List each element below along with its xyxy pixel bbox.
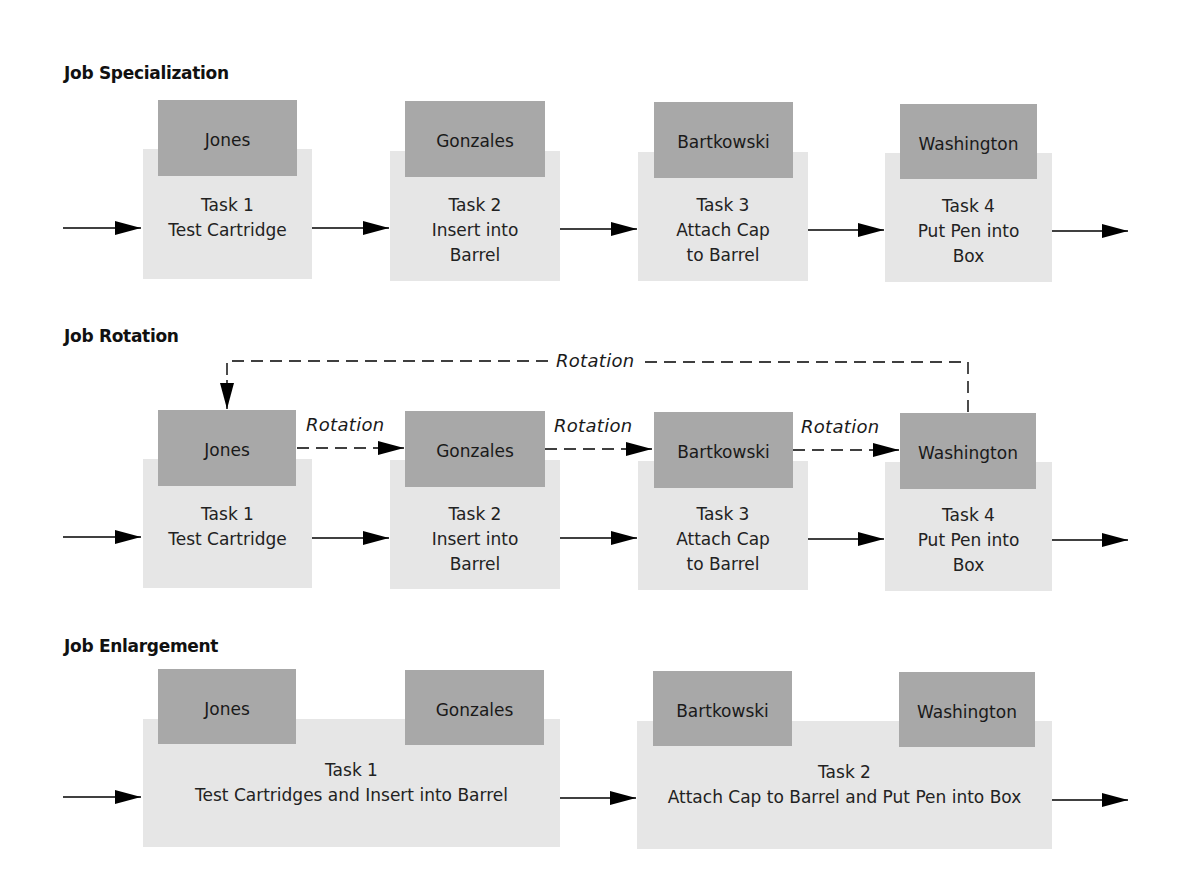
worker-box-bartkowski: Bartkowski	[654, 102, 793, 178]
task-label: Task 1 Test Cartridge	[143, 502, 312, 552]
task-description: Put Pen into	[885, 528, 1052, 553]
worker-box-washington: Washington	[900, 413, 1036, 489]
worker-box-jones: Jones	[158, 100, 297, 176]
task-number: Task 2	[390, 193, 560, 218]
task-description: Barrel	[390, 552, 560, 577]
task-label: Task 4 Put Pen into Box	[885, 194, 1052, 269]
worker-name: Jones	[205, 130, 251, 150]
worker-box-gonzales: Gonzales	[405, 670, 544, 745]
task-number: Task 3	[638, 502, 808, 527]
task-label: Task 2 Attach Cap to Barrel and Put Pen …	[637, 760, 1052, 810]
task-number: Task 4	[885, 503, 1052, 528]
task-description: to Barrel	[638, 552, 808, 577]
worker-name: Jones	[204, 440, 250, 460]
task-label: Task 1 Test Cartridges and Insert into B…	[143, 758, 560, 808]
task-number: Task 4	[885, 194, 1052, 219]
task-description: Box	[885, 244, 1052, 269]
task-number: Task 1	[143, 502, 312, 527]
worker-name: Washington	[918, 443, 1018, 463]
task-label: Task 3 Attach Cap to Barrel	[638, 502, 808, 577]
rotation-label: Rotation	[306, 414, 385, 435]
task-description: to Barrel	[638, 243, 808, 268]
task-number: Task 2	[637, 760, 1052, 785]
task-description: Box	[885, 553, 1052, 578]
worker-box-washington: Washington	[899, 672, 1035, 747]
rotation-label: Rotation	[801, 416, 880, 437]
worker-name: Gonzales	[436, 700, 514, 720]
task-description: Test Cartridges and Insert into Barrel	[143, 783, 560, 808]
worker-name: Bartkowski	[676, 701, 769, 721]
section-title: Job Enlargement	[64, 636, 218, 656]
worker-name: Gonzales	[436, 441, 514, 461]
task-description: Insert into	[390, 218, 560, 243]
task-description: Attach Cap	[638, 218, 808, 243]
task-label: Task 4 Put Pen into Box	[885, 503, 1052, 578]
worker-name: Washington	[919, 134, 1019, 154]
task-description: Put Pen into	[885, 219, 1052, 244]
worker-box-jones: Jones	[158, 669, 296, 744]
worker-box-washington: Washington	[900, 104, 1037, 179]
task-description: Test Cartridge	[143, 218, 312, 243]
return-dashed-line	[227, 361, 548, 380]
worker-box-gonzales: Gonzales	[405, 411, 545, 487]
task-number: Task 3	[638, 193, 808, 218]
task-number: Task 2	[390, 502, 560, 527]
worker-box-bartkowski: Bartkowski	[654, 412, 793, 488]
task-label: Task 3 Attach Cap to Barrel	[638, 193, 808, 268]
worker-box-jones: Jones	[158, 410, 296, 486]
worker-name: Gonzales	[436, 131, 514, 151]
rotation-return-label: Rotation	[552, 350, 639, 371]
task-number: Task 1	[143, 193, 312, 218]
worker-box-bartkowski: Bartkowski	[653, 671, 792, 746]
worker-name: Bartkowski	[677, 132, 770, 152]
task-description: Attach Cap to Barrel and Put Pen into Bo…	[637, 785, 1052, 810]
task-description: Test Cartridge	[143, 527, 312, 552]
worker-name: Washington	[917, 702, 1017, 722]
task-label: Task 2 Insert into Barrel	[390, 193, 560, 268]
task-number: Task 1	[143, 758, 560, 783]
task-description: Barrel	[390, 243, 560, 268]
task-description: Insert into	[390, 527, 560, 552]
return-dashed-line	[638, 362, 968, 412]
section-title: Job Specialization	[64, 63, 229, 83]
rotation-label: Rotation	[554, 415, 633, 436]
worker-box-gonzales: Gonzales	[405, 101, 545, 177]
worker-name: Bartkowski	[677, 442, 770, 462]
task-label: Task 2 Insert into Barrel	[390, 502, 560, 577]
task-label: Task 1 Test Cartridge	[143, 193, 312, 243]
worker-name: Jones	[204, 699, 250, 719]
task-description: Attach Cap	[638, 527, 808, 552]
section-title: Job Rotation	[64, 326, 179, 346]
